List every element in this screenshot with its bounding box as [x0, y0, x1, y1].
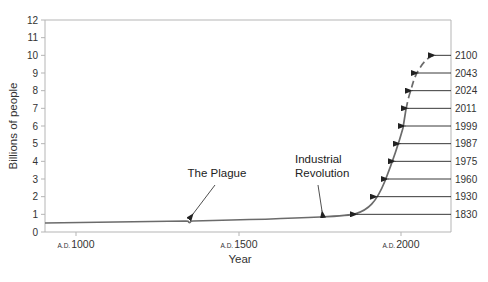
- x-tick-1500: A.D.1500: [220, 238, 257, 250]
- milestone-year-label: 1999: [455, 121, 478, 132]
- annotation-plague: The Plague: [188, 167, 247, 214]
- population-chart: 0123456789101112 Billions of people A.D.…: [0, 0, 488, 282]
- y-tick-label: 11: [28, 32, 39, 43]
- plot-frame: [45, 20, 451, 232]
- y-axis: 0123456789101112: [27, 15, 45, 238]
- milestone-year-label: 2100: [455, 50, 478, 61]
- x-axis-title: Year: [228, 253, 251, 265]
- x-axis: A.D.1000 A.D.1500 A.D.2000: [57, 232, 419, 250]
- milestone-year-label: 1987: [455, 138, 478, 149]
- population-curve-historical: [45, 109, 406, 223]
- y-tick-label: 10: [27, 50, 39, 61]
- y-tick-label: 12: [27, 15, 39, 26]
- milestone-year-label: 2024: [455, 85, 478, 96]
- annotation-industrial-revolution: Industrial Revolution: [295, 153, 349, 211]
- y-tick-label: 1: [32, 209, 38, 220]
- svg-text:The Plague: The Plague: [188, 167, 247, 179]
- milestone-year-label: 1930: [455, 191, 478, 202]
- y-tick-label: 4: [32, 156, 38, 167]
- milestone-year-label: 1975: [455, 156, 478, 167]
- y-tick-label: 5: [32, 138, 38, 149]
- y-tick-label: 2: [32, 191, 38, 202]
- y-tick-label: 7: [32, 103, 38, 114]
- milestone-year-label: 2043: [455, 68, 478, 79]
- svg-text:Industrial: Industrial: [295, 153, 342, 165]
- milestone-arrows: 1830193019601975198719992011202420432100: [357, 50, 478, 220]
- y-axis-title: Billions of people: [7, 83, 19, 170]
- svg-text:Revolution: Revolution: [295, 167, 349, 179]
- milestone-year-label: 2011: [455, 103, 477, 114]
- y-tick-label: 8: [32, 85, 38, 96]
- milestone-year-label: 1830: [455, 209, 478, 220]
- milestone-year-label: 1960: [455, 174, 478, 185]
- y-tick-label: 0: [32, 227, 38, 238]
- population-curve-projected: [406, 55, 436, 109]
- y-tick-label: 6: [32, 121, 38, 132]
- y-tick-label: 3: [32, 174, 38, 185]
- y-tick-label: 9: [32, 68, 38, 79]
- x-tick-1000: A.D.1000: [57, 238, 94, 250]
- x-tick-2000: A.D.2000: [382, 238, 419, 250]
